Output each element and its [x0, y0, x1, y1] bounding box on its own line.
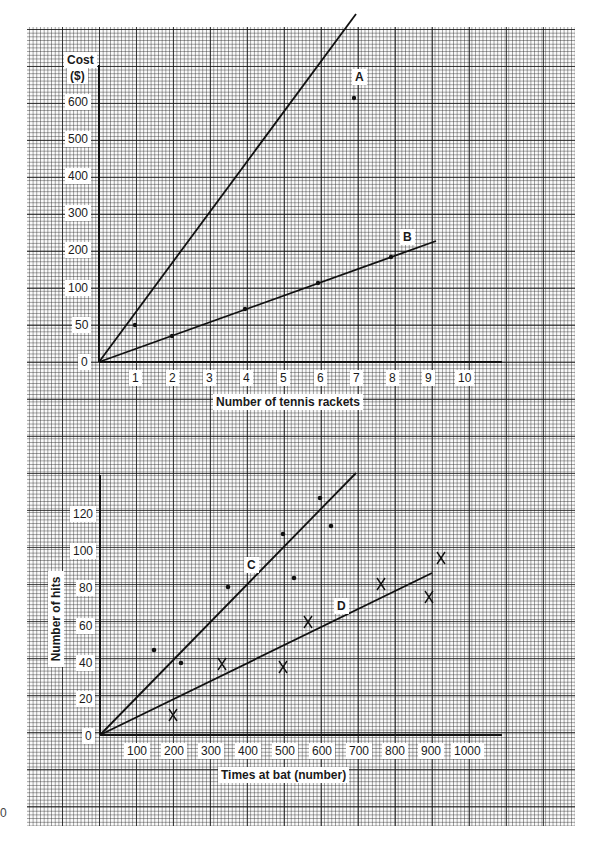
line-c: [100, 473, 356, 735]
margin-mark: 0: [0, 806, 7, 820]
top-x-tick: 10: [455, 370, 474, 386]
series-label-d: D: [334, 598, 349, 614]
bottom-x-tick: 1000: [451, 743, 484, 759]
top-x-tick: 3: [203, 370, 216, 386]
point-b-8: [389, 255, 393, 259]
bottom-x-tick: 100: [124, 743, 150, 759]
bottom-x-tick: 200: [161, 743, 187, 759]
bottom-y-tick: 120: [70, 506, 96, 522]
top-x-tick: 8: [386, 370, 399, 386]
point-a-7: [352, 96, 356, 100]
top-y-tick: 200: [65, 242, 91, 258]
bottom-y-tick: 40: [76, 655, 95, 671]
bottom-x-tick: 400: [235, 743, 261, 759]
bottom-x-tick: 900: [418, 743, 444, 759]
series-d-points: [169, 552, 445, 721]
series-c-points: [152, 496, 334, 666]
line-a: [99, 14, 356, 362]
top-x-tick: 2: [166, 370, 179, 386]
top-y-tick: 300: [65, 205, 91, 221]
top-y-tick: 500: [65, 131, 91, 147]
bottom-y-tick: 100: [70, 543, 96, 559]
bottom-x-tick: 300: [198, 743, 224, 759]
point-a-1: [133, 323, 137, 327]
bottom-x-tick: 700: [346, 743, 372, 759]
top-y-tick: 0: [78, 354, 91, 370]
point-b-4: [243, 307, 247, 311]
series-label-b: B: [400, 229, 415, 245]
bottom-y-tick: 80: [76, 580, 95, 596]
bottom-x-title: Times at bat (number): [218, 767, 349, 783]
top-x-tick: 6: [314, 370, 327, 386]
bottom-x-tick: 800: [382, 743, 408, 759]
top-y-tick: 400: [65, 168, 91, 184]
top-x-tick: 7: [350, 370, 363, 386]
top-y-tick: 50: [72, 317, 91, 333]
top-x-tick: 4: [240, 370, 253, 386]
top-y-title-line1: Cost: [64, 52, 97, 68]
line-d: [100, 573, 432, 735]
top-x-tick: 5: [277, 370, 290, 386]
series-label-c: C: [244, 557, 259, 573]
point-b-6: [316, 281, 320, 285]
top-x-tick: 9: [422, 370, 435, 386]
top-x-tick: 1: [129, 370, 142, 386]
top-y-tick: 100: [65, 280, 91, 296]
series-label-a: A: [352, 69, 367, 85]
top-x-title: Number of tennis rackets: [213, 394, 363, 410]
line-b: [99, 241, 436, 362]
bottom-y-tick: 20: [76, 691, 95, 707]
top-y-title-line2: ($): [67, 68, 88, 84]
top-y-tick: 600: [65, 94, 91, 110]
point-b-2: [170, 334, 174, 338]
bottom-y-tick: 60: [76, 618, 95, 634]
bottom-y-title: Number of hits: [48, 571, 64, 667]
bottom-y-tick: 0: [82, 728, 95, 744]
chart-lines: [0, 0, 598, 850]
bottom-x-tick: 600: [309, 743, 335, 759]
bottom-x-tick: 500: [272, 743, 298, 759]
